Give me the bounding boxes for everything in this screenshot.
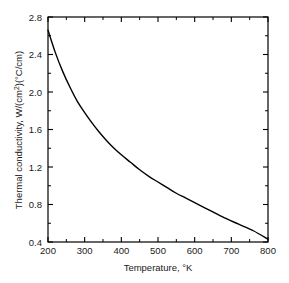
y-axis-title: Thermal conductivity, W/(cm2)(°C/cm)	[13, 51, 25, 209]
x-tick-label: 200	[40, 245, 56, 256]
chart-figure: 200300400500600700800 0.40.81.21.62.02.4…	[0, 0, 289, 283]
y-tick-label: 1.2	[29, 162, 42, 173]
x-tick-label: 700	[223, 245, 239, 256]
x-tick-label: 800	[260, 245, 276, 256]
x-tick-label: 400	[113, 245, 129, 256]
y-tick-label: 0.8	[29, 199, 42, 210]
y-tick-label: 2.0	[29, 87, 42, 98]
y-tick-label: 0.4	[29, 237, 42, 248]
y-tick-label: 2.8	[29, 12, 42, 23]
x-tick-label: 600	[187, 245, 203, 256]
y-tick-label: 1.6	[29, 124, 42, 135]
x-tick-label: 300	[77, 245, 93, 256]
y-tick-label: 2.4	[29, 49, 42, 60]
thermal-conductivity-line-chart: 200300400500600700800 0.40.81.21.62.02.4…	[0, 0, 289, 283]
chart-background	[0, 0, 289, 283]
x-tick-label: 500	[150, 245, 166, 256]
x-axis-title: Temperature, °K	[124, 262, 193, 273]
